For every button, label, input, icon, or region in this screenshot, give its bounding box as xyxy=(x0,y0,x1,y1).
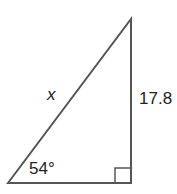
right-angle-marker xyxy=(115,168,131,183)
triangle xyxy=(8,19,131,183)
hypotenuse-label: x xyxy=(47,86,56,103)
angle-label: 54° xyxy=(29,160,55,177)
side-length-label: 17.8 xyxy=(139,90,172,107)
